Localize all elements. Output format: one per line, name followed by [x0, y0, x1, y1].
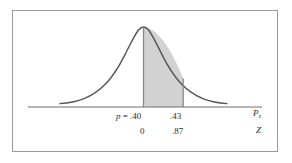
- tick-label-boundary-z: .87: [172, 127, 183, 136]
- tick-label-mean-rest: = .40: [121, 111, 142, 121]
- axis-label-proportion-subscript: s: [259, 112, 262, 119]
- axis-label-z: Z: [256, 126, 261, 135]
- tick-label-boundary-proportion: .43: [170, 112, 181, 121]
- normal-distribution-figure: p = .40 .43 0 .87 Ps Z: [0, 0, 292, 163]
- tick-label-mean-proportion: p = .40: [116, 112, 141, 121]
- tick-label-mean-z: 0: [140, 127, 145, 136]
- axis-label-proportion: Ps: [253, 109, 261, 118]
- axis-label-proportion-letter: P: [253, 108, 259, 118]
- figure-frame-border: [12, 10, 278, 152]
